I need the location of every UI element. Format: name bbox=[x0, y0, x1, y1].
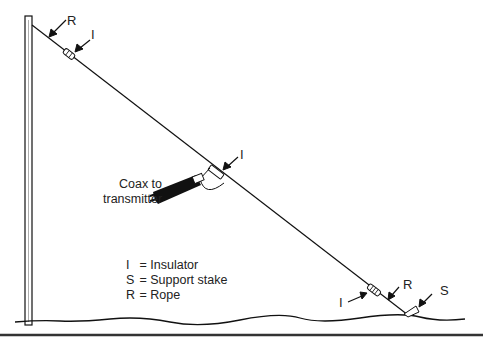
legend-value: Support stake bbox=[150, 273, 227, 287]
legend-row-rope: R = Rope bbox=[126, 288, 227, 303]
legend: I = Insulator S = Support stake R = Rope bbox=[126, 258, 227, 303]
support-stake-icon bbox=[404, 306, 419, 317]
label-insulator-center: I bbox=[240, 147, 244, 162]
feed-loop bbox=[200, 179, 224, 190]
arrow-insulator-bottom-icon bbox=[348, 292, 367, 302]
legend-value: Rope bbox=[150, 288, 180, 302]
coax-label: Coax to transmitter bbox=[103, 177, 162, 207]
arrow-rope-bottom-icon bbox=[388, 287, 399, 300]
label-insulator-top: I bbox=[91, 27, 95, 42]
label-rope-top: R bbox=[67, 13, 76, 28]
legend-value: Insulator bbox=[150, 258, 198, 272]
label-insulator-bottom: I bbox=[339, 295, 343, 310]
label-stake: S bbox=[440, 283, 449, 298]
arrow-rope-top-icon bbox=[49, 20, 66, 37]
legend-key: I bbox=[126, 258, 136, 273]
legend-row-insulator: I = Insulator bbox=[126, 258, 227, 273]
insulator-top-icon bbox=[62, 48, 75, 60]
legend-key: R bbox=[126, 288, 136, 303]
legend-key: S bbox=[126, 273, 136, 288]
coax-label-line1: Coax to bbox=[103, 177, 162, 192]
pole bbox=[25, 16, 32, 325]
legend-sep: = bbox=[139, 273, 146, 287]
ground-line bbox=[15, 315, 465, 325]
coax-label-line2: transmitter bbox=[103, 192, 162, 207]
legend-sep: = bbox=[139, 258, 146, 272]
arrow-stake-icon bbox=[419, 294, 432, 307]
insulator-bottom-icon bbox=[367, 283, 382, 296]
legend-sep: = bbox=[139, 288, 146, 302]
arrow-insulator-top-icon bbox=[75, 40, 90, 52]
arrow-insulator-center-icon bbox=[223, 157, 238, 170]
legend-row-stake: S = Support stake bbox=[126, 273, 227, 288]
label-rope-bottom: R bbox=[403, 277, 412, 292]
